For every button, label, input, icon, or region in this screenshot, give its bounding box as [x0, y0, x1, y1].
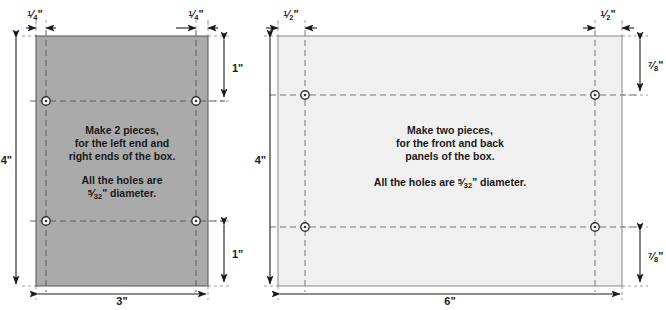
- hole-bottom-left: [42, 217, 50, 225]
- left-hole-note-line-1: All the holes are: [81, 174, 162, 186]
- left-dim-height: 4": [1, 38, 16, 284]
- technical-drawing-canvas: 1⁄4" 1⁄4" 1" 1" 4": [0, 0, 666, 310]
- left-bottom-inset-label: 1": [232, 248, 243, 260]
- hole-top-right: [591, 91, 599, 99]
- left-note-line-2: for the left end and: [75, 137, 170, 149]
- left-inset-left-label: 1⁄4": [27, 8, 42, 22]
- right-inset-right-label: 1⁄2": [600, 8, 615, 22]
- hole-top-left: [301, 91, 309, 99]
- right-note-line-3: panels of the box.: [405, 150, 494, 162]
- right-width-label: 6": [444, 295, 455, 307]
- left-note-line-1: Make 2 pieces,: [85, 124, 159, 136]
- right-dim-inset-left: 1⁄2": [266, 8, 317, 32]
- hole-top-right: [192, 97, 200, 105]
- left-width-label: 3": [116, 295, 127, 307]
- left-inset-right-label: 1⁄4": [188, 8, 203, 22]
- left-top-inset-label: 1": [232, 62, 243, 74]
- right-bottom-inset-label: 7⁄8": [648, 250, 663, 264]
- right-note-line-2: for the front and back: [396, 137, 504, 149]
- left-dim-inset-right: 1⁄4": [176, 8, 218, 32]
- right-dim-width: 6": [280, 294, 620, 307]
- front-back-panel-group: 1⁄2" 1⁄2" 7⁄8" 7⁄8": [255, 8, 664, 307]
- right-top-inset-label: 7⁄8": [648, 59, 663, 73]
- left-dim-inset-left: 1⁄4": [26, 8, 56, 32]
- left-dim-width: 3": [38, 294, 206, 307]
- right-dim-inset-right: 1⁄2": [583, 8, 634, 32]
- right-dim-height: 4": [255, 38, 270, 284]
- left-end-panel-group: 1⁄4" 1⁄4" 1" 1" 4": [1, 8, 244, 307]
- left-dim-top-inset: 1": [224, 40, 243, 97]
- right-note-line-1: Make two pieces,: [407, 124, 493, 136]
- hole-bottom-right: [192, 217, 200, 225]
- right-height-label: 4": [255, 154, 266, 166]
- hole-bottom-left: [301, 223, 309, 231]
- right-inset-left-label: 1⁄2": [283, 8, 298, 22]
- hole-top-left: [42, 97, 50, 105]
- left-note-line-3: right ends of the box.: [69, 150, 176, 162]
- panel-drawing-svg: 1⁄4" 1⁄4" 1" 1" 4": [0, 0, 666, 310]
- hole-bottom-right: [591, 223, 599, 231]
- left-dim-bottom-inset: 1": [224, 225, 243, 282]
- right-dim-top-inset: 7⁄8": [640, 40, 663, 91]
- left-height-label: 4": [1, 154, 12, 166]
- right-dim-bottom-inset: 7⁄8": [640, 231, 663, 282]
- right-hole-note: All the holes are 5⁄32" diameter.: [374, 176, 526, 190]
